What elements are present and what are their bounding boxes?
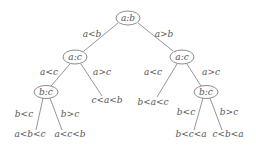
node-root: a:b [116, 11, 140, 25]
node-left-left: b:c [34, 86, 58, 99]
edge-ll-leaf1 [36, 98, 43, 130]
edge-label-a-lt-b: a<b [83, 29, 102, 39]
edge-right-rightright [187, 64, 201, 86]
edge-label-a-gt-b: a>b [155, 29, 174, 39]
edge-label-left-a-lt-c: a<c [40, 67, 58, 77]
edge-label-left-b-lt-c: b<c [15, 109, 33, 119]
node-left-label: a:c [68, 52, 81, 62]
leaf-a-c-b: a<c<b [54, 129, 85, 139]
node-left-left-label: b:c [39, 87, 53, 97]
leaf-c-a-b: c<a<b [91, 95, 122, 105]
edge-label-left-a-gt-c: a>c [93, 67, 111, 77]
node-right-right: b:c [194, 86, 218, 99]
edge-label-right-b-lt-c: b<c [177, 107, 195, 117]
node-right-label: a:c [175, 52, 188, 62]
node-right: a:c [170, 50, 194, 64]
decision-tree-diagram: a:b a:c a:c b:c b:c c<a<b b<a<c a<b<c a<… [0, 0, 256, 148]
node-root-label: a:b [121, 13, 135, 23]
edge-rr-leaf1 [194, 98, 203, 130]
edge-label-right-b-gt-c: b>c [220, 107, 238, 117]
edge-label-right-a-lt-c: a<c [144, 67, 162, 77]
leaf-c-b-a: c<b<a [212, 129, 243, 139]
node-right-right-label: b:c [199, 87, 213, 97]
leaf-b-c-a: b<c<a [175, 129, 206, 139]
node-left: a:c [63, 50, 87, 64]
edge-label-right-a-gt-c: a>c [202, 67, 220, 77]
leaf-a-b-c: a<b<c [14, 129, 45, 139]
leaf-b-a-c: b<a<c [137, 97, 168, 107]
edge-label-left-b-gt-c: b>c [61, 109, 79, 119]
